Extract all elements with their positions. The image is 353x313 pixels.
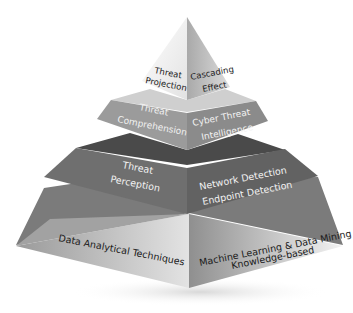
tier-1: Threat Projection Cascading Effect [142,17,235,100]
threat-pyramid-diagram: Data Analytical Techniques Machine Learn… [0,0,353,313]
